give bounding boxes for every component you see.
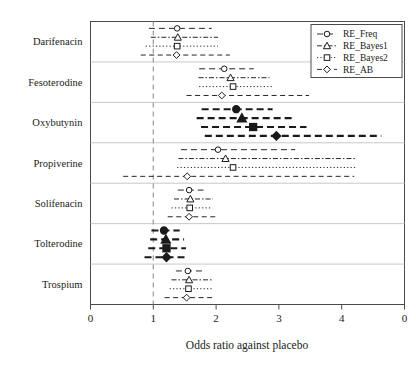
marker-fesoterodine-re_freq — [221, 66, 227, 72]
x-tick-label-2: 2 — [213, 312, 219, 324]
marker-darifenacin-re_bayes2 — [174, 43, 180, 49]
marker-fesoterodine-re_bayes2 — [230, 84, 236, 90]
legend-label-re_bayes2: RE_Bayes2 — [343, 53, 388, 63]
marker-oxybutynin-re_freq — [233, 106, 240, 113]
marker-tolterodine-re_freq — [161, 227, 168, 234]
category-label-solifenacin: Solifenacin — [35, 198, 84, 209]
x-tick-label-1: 1 — [151, 312, 157, 324]
legend-label-re_bayes1: RE_Bayes1 — [343, 41, 388, 51]
marker-solifenacin-re_freq — [186, 187, 192, 193]
marker-solifenacin-re_bayes2 — [187, 205, 193, 211]
marker-trospium-re_bayes2 — [186, 286, 192, 292]
legend-square-icon — [324, 55, 330, 61]
marker-propiverine-re_freq — [215, 147, 221, 153]
x-tick-label-0: 0 — [88, 312, 94, 324]
category-label-fesoterodine: Fesoterodine — [28, 77, 83, 88]
category-label-tolterodine: Tolterodine — [34, 238, 83, 249]
x-tick-label-3: 3 — [276, 312, 282, 324]
legend-label-re_ab: RE_AB — [343, 65, 373, 75]
x-axis-title: Odds ratio against placebo — [186, 339, 309, 352]
legend: RE_FreqRE_Bayes1RE_Bayes2RE_AB — [311, 25, 402, 78]
category-label-trospium: Trospium — [42, 279, 82, 290]
marker-oxybutynin-re_bayes2 — [250, 124, 257, 131]
marker-propiverine-re_bayes2 — [230, 165, 236, 171]
x-tick-label-5: 0 — [402, 312, 408, 324]
marker-trospium-re_freq — [185, 268, 191, 274]
odds-ratio-forest-plot: DarifenacinFesoterodineOxybutyninPropive… — [0, 0, 416, 365]
x-tick-label-4: 4 — [339, 312, 345, 324]
category-label-darifenacin: Darifenacin — [33, 36, 83, 47]
category-label-propiverine: Propiverine — [34, 158, 83, 169]
marker-darifenacin-re_freq — [174, 26, 180, 32]
category-label-oxybutynin: Oxybutynin — [32, 117, 83, 128]
legend-label-re_freq: RE_Freq — [343, 29, 378, 39]
forest-plot-figure: DarifenacinFesoterodineOxybutyninPropive… — [0, 0, 416, 365]
marker-tolterodine-re_bayes2 — [163, 245, 170, 252]
legend-circle-icon — [324, 31, 330, 37]
